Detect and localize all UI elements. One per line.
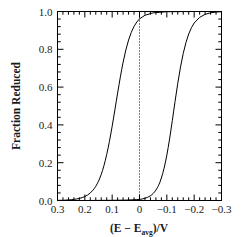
y-tick-label: 0.4 bbox=[39, 119, 53, 131]
plot-background bbox=[0, 0, 243, 237]
y-tick-label: 0.2 bbox=[39, 157, 53, 169]
y-axis-title: Fraction Reduced bbox=[10, 61, 22, 149]
svg-text:Fraction Reduced: Fraction Reduced bbox=[10, 61, 22, 149]
y-tick-label: 0.6 bbox=[39, 81, 53, 93]
x-tick-label: 0.2 bbox=[78, 203, 92, 215]
x-tick-label: 0.3 bbox=[51, 203, 65, 215]
chart-figure: 0.30.20.10−0.1−0.2−0.3 0.00.20.40.60.81.… bbox=[0, 0, 243, 237]
x-tick-label: −0.3 bbox=[212, 203, 232, 215]
y-tick-label: 0.0 bbox=[39, 195, 53, 207]
x-tick-label: −0.2 bbox=[184, 203, 204, 215]
y-tick-label: 0.8 bbox=[39, 43, 53, 55]
fraction-reduced-plot: 0.30.20.10−0.1−0.2−0.3 0.00.20.40.60.81.… bbox=[0, 0, 243, 237]
x-tick-label: −0.1 bbox=[157, 203, 177, 215]
x-tick-label: 0.1 bbox=[105, 203, 119, 215]
y-tick-label: 1.0 bbox=[39, 6, 53, 18]
x-tick-label: 0 bbox=[137, 203, 143, 215]
